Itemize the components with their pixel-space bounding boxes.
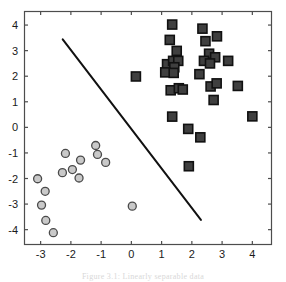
data-point-square [201,37,210,46]
data-point-circle [102,158,110,166]
data-point-circle [61,149,69,157]
y-tick-label: -3 [8,198,18,210]
data-point-circle [93,150,101,158]
x-tick-label: 1 [159,248,165,260]
data-point-square [161,68,170,77]
x-tick-label: 3 [219,248,225,260]
data-point-square [172,46,181,55]
data-point-square [178,85,187,94]
data-point-circle [38,201,46,209]
y-tick-label: 0 [12,121,18,133]
data-point-square [248,112,257,121]
data-point-circle [42,216,50,224]
x-tick-label: 4 [249,248,255,260]
data-point-square [233,81,242,90]
data-point-square [212,79,221,88]
x-tick-label: 0 [128,248,134,260]
x-tick-label: -2 [66,248,76,260]
data-point-square [184,124,193,133]
data-point-square [195,70,204,79]
data-point-circle [77,156,85,164]
x-tick-label: -3 [36,248,46,260]
data-point-square [196,133,205,142]
data-point-square [168,112,177,121]
data-point-square [165,35,174,44]
data-point-square [212,32,221,41]
x-tick-label: 2 [189,248,195,260]
data-point-circle [49,229,57,237]
data-point-square [184,162,193,171]
data-point-circle [75,174,83,182]
data-point-square [224,56,233,65]
y-tick-label: -1 [8,147,18,159]
data-point-square [206,59,215,68]
y-tick-label: -2 [8,173,18,185]
data-point-circle [41,187,49,195]
data-point-circle [92,142,100,150]
data-point-circle [58,169,66,177]
data-point-square [168,20,177,29]
data-point-circle [68,166,76,174]
data-point-square [209,95,218,104]
scatter-plot: -3-2-101234 -4-3-2-101234 [0,0,286,282]
y-tick-label: -4 [8,224,18,236]
figure-caption: Figure 3.1: Linearly separable data [0,272,286,282]
figure-container: -3-2-101234 -4-3-2-101234 Figure 3.1: Li… [0,0,286,282]
y-tick-label: 1 [12,96,18,108]
data-point-square [169,68,178,77]
figure-background [0,0,286,282]
data-point-square [198,24,207,33]
y-tick-label: 2 [12,70,18,82]
data-point-square [131,72,140,81]
x-tick-label: -1 [96,248,106,260]
y-tick-label: 4 [12,19,18,31]
data-point-circle [128,202,136,210]
y-tick-label: 3 [12,45,18,57]
data-point-circle [34,175,42,183]
